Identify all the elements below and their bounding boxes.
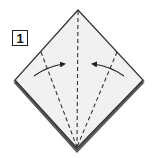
paper-diamond — [15, 10, 143, 148]
origami-diagram — [0, 0, 153, 158]
